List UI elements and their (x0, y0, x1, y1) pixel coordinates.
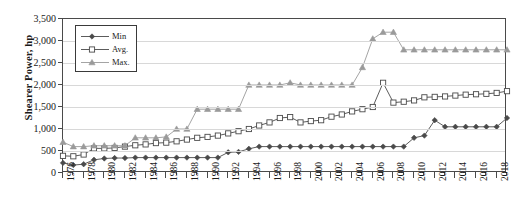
x-tick-label: 1988 (190, 162, 200, 181)
series-min (60, 115, 509, 167)
data-point (153, 135, 159, 140)
data-point (390, 29, 396, 34)
data-point (267, 120, 272, 125)
x-tick-label: 1992 (231, 162, 241, 181)
legend-item: Avg. (80, 42, 130, 55)
series-line (63, 118, 507, 165)
data-point (174, 155, 179, 160)
data-point (60, 160, 65, 165)
data-point (257, 123, 262, 128)
data-point (401, 99, 406, 104)
data-point (473, 47, 479, 52)
data-point (112, 143, 118, 148)
data-point (473, 92, 478, 97)
data-point (277, 144, 282, 149)
x-tick-major (186, 172, 187, 178)
x-tick-major (475, 172, 476, 178)
y-tick (58, 150, 62, 151)
data-point (442, 94, 447, 99)
data-point (215, 155, 220, 160)
x-tick-label: 2000 (314, 162, 324, 181)
data-point (195, 135, 200, 140)
data-point (112, 145, 117, 150)
x-tick-label: 1980 (107, 162, 117, 181)
x-tick-major (124, 172, 125, 178)
data-point (463, 92, 468, 97)
y-tick (58, 128, 62, 129)
data-point (205, 155, 210, 160)
data-point (422, 95, 427, 100)
y-tick-label: 3,000 (2, 35, 56, 46)
data-point (391, 144, 396, 149)
data-point (370, 144, 375, 149)
data-point (411, 47, 417, 52)
gridline (63, 85, 505, 86)
data-point (164, 140, 169, 145)
data-point (112, 155, 117, 160)
legend-marker-icon (80, 55, 110, 68)
y-tick-label: 2,500 (2, 57, 56, 68)
x-tick-label: 1990 (211, 162, 221, 181)
x-tick-label: 1984 (149, 162, 159, 181)
data-point (380, 29, 386, 34)
x-tick-major (83, 172, 84, 178)
data-point (81, 152, 86, 157)
data-point (153, 140, 158, 145)
legend-label: Max. (110, 57, 130, 67)
x-tick-major (289, 172, 290, 178)
data-point (494, 47, 500, 52)
data-point (184, 137, 189, 142)
x-tick-major (62, 172, 63, 178)
x-tick-major (392, 172, 393, 178)
data-point (174, 139, 179, 144)
data-point (60, 139, 66, 144)
data-point (329, 144, 334, 149)
x-tick-label: 1986 (169, 162, 179, 181)
data-point (215, 133, 220, 138)
y-tick-label: 2,000 (2, 79, 56, 90)
x-tick-major (207, 172, 208, 178)
x-tick-major (454, 172, 455, 178)
x-tick-major (496, 172, 497, 178)
data-point (391, 100, 396, 105)
x-tick-label: 1998 (293, 162, 303, 181)
data-point (132, 135, 138, 140)
x-tick-label: 2016 (479, 162, 489, 181)
x-tick-major (145, 172, 146, 178)
x-tick-label: 2008 (396, 162, 406, 181)
data-point (195, 155, 200, 160)
data-point (463, 47, 469, 52)
data-point (350, 109, 355, 114)
data-point (205, 134, 210, 139)
legend-item: Min (80, 29, 130, 42)
data-point (81, 144, 87, 149)
data-point (122, 144, 127, 149)
data-point (71, 154, 76, 159)
x-tick-label: 2012 (438, 162, 448, 181)
legend: MinAvg.Max. (75, 25, 137, 72)
data-point (133, 143, 138, 148)
x-tick-major (227, 172, 228, 178)
data-point (102, 156, 107, 161)
chart-container: Shearer Power, hp 05001,0001,5002,0002,5… (0, 0, 522, 217)
data-point (319, 118, 324, 123)
x-tick-major (310, 172, 311, 178)
data-point (143, 155, 148, 160)
data-point (277, 115, 282, 120)
x-tick-label: 1978 (87, 162, 97, 181)
x-tick-label: 2006 (376, 162, 386, 181)
data-point (401, 47, 407, 52)
data-point (164, 155, 169, 160)
data-point (329, 114, 334, 119)
data-point (226, 131, 231, 136)
gridline (63, 151, 505, 152)
data-point (483, 47, 489, 52)
data-point (452, 47, 458, 52)
legend-item: Max. (80, 55, 130, 68)
y-tick (58, 84, 62, 85)
data-point (411, 98, 416, 103)
data-point (288, 115, 293, 120)
data-point (143, 135, 149, 140)
x-tick-label: 1982 (128, 162, 138, 181)
series-line (63, 83, 507, 156)
